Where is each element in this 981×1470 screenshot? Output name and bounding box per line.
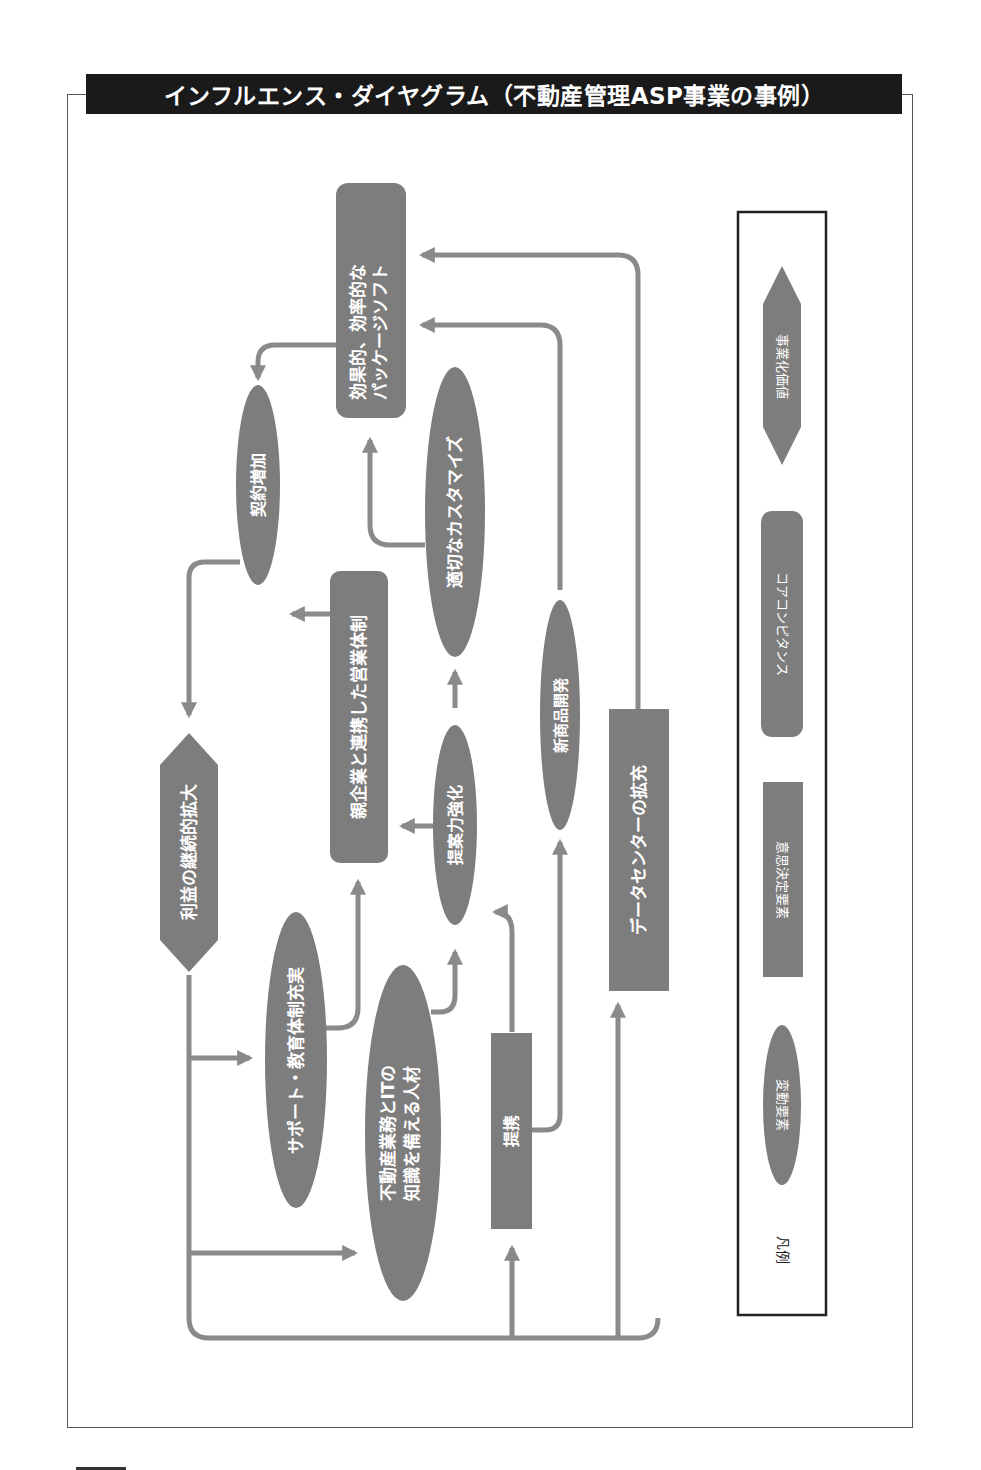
legend-label: 事業化価値 [775, 334, 790, 399]
edge-contract-to-profit [189, 562, 240, 715]
node-label: 不動産業務とITの [378, 1065, 398, 1202]
node-label: 知識を備える人材 [402, 1066, 422, 1202]
legend-title: 凡例 [775, 1236, 791, 1264]
node-new-product-dev: 新商品開発 [540, 600, 580, 830]
node-support-education: サポート・教育体制充実 [265, 912, 327, 1208]
node-realestate-it-talent: 不動産業務とITの 知識を備える人材 [365, 965, 441, 1301]
edge-talent-to-proposal [431, 952, 455, 1012]
edge-support-to-sales [326, 882, 358, 1028]
edge-package-to-contract [258, 345, 336, 378]
legend-label: コアコンピタンス [775, 572, 790, 676]
legend-item-variable: 変動要素 [763, 1025, 801, 1185]
node-label: 親企業と連携した営業体制 [349, 615, 369, 819]
legend-item-core-competence: コアコンピタンス [761, 511, 803, 737]
node-parent-partnership-sales: 親企業と連携した営業体制 [330, 571, 388, 863]
node-profit-expansion: 利益の継続的拡大 [160, 733, 218, 972]
influence-diagram: 効果的、効率的な パッケージソフト 契約増加 親企業と連携した営業体制 適切なカ… [0, 0, 981, 1470]
node-label: 適切なカスタマイズ [445, 436, 465, 588]
edge-alliance-to-proposal [495, 912, 512, 1032]
node-label: サポート・教育体制充実 [286, 967, 306, 1154]
legend-item-decision: 意思決定要素 [763, 782, 803, 977]
legend-label: 意思決定要素 [775, 841, 790, 919]
node-alliance: 提携 [491, 1033, 532, 1229]
node-label: 効果的、効率的な [348, 264, 368, 400]
node-label: パッケージソフト [370, 264, 390, 400]
node-label: 利益の継続的拡大 [179, 784, 199, 920]
edge-customize-to-package [370, 440, 425, 545]
legend-item-business-value: 事業化価値 [763, 266, 801, 465]
node-label: 契約増加 [249, 453, 268, 518]
node-label: データセンターの拡充 [629, 765, 649, 935]
node-label: 新商品開発 [552, 677, 570, 753]
legend: 事業化価値 コアコンピタンス 意思決定要素 変動要素 凡例 [738, 212, 826, 1315]
node-efficient-package: 効果的、効率的な パッケージソフト [336, 183, 406, 418]
legend-label: 変動要素 [775, 1079, 790, 1131]
edge-alliance-to-newproduct [532, 842, 560, 1130]
node-label: 提案力強化 [446, 785, 465, 865]
node-datacenter-expansion: データセンターの拡充 [609, 709, 669, 991]
node-label: 提携 [502, 1115, 521, 1147]
node-proper-customize: 適切なカスタマイズ [425, 367, 485, 657]
node-contract-increase: 契約増加 [236, 385, 280, 585]
node-proposal-strength: 提案力強化 [433, 725, 477, 925]
